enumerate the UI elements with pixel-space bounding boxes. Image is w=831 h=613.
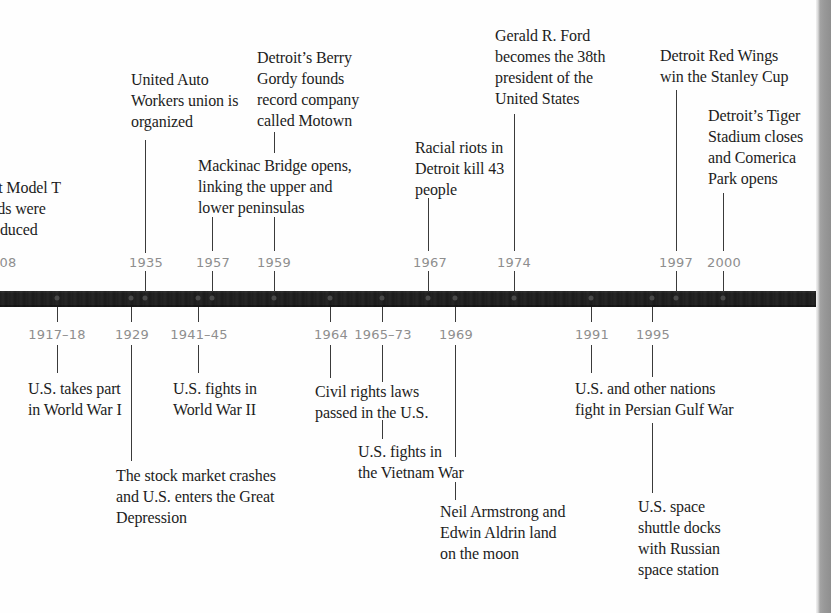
- connector-1997-lower: [676, 271, 677, 292]
- connector-1967-upper: [428, 198, 429, 251]
- year-label-1929: 1929: [115, 327, 149, 342]
- connector-1929-upper: [131, 307, 132, 322]
- timeline-marker-1969: [453, 296, 458, 301]
- timeline-marker-1967: [426, 296, 431, 301]
- connector-1935-upper: [145, 140, 146, 253]
- connector-1964-upper: [330, 307, 331, 322]
- event-text-1969: Neil Armstrong and Edwin Aldrin land on …: [440, 501, 565, 564]
- timeline-marker-1929: [129, 296, 134, 301]
- timeline-marker-1935: [143, 296, 148, 301]
- timeline-marker-1974: [512, 296, 517, 301]
- year-label-1995: 1995: [636, 327, 670, 342]
- year-label-1974: 1974: [497, 255, 531, 270]
- event-text-1917-18: U.S. takes part in World War I: [28, 378, 122, 420]
- connector-1941-lower: [198, 345, 199, 373]
- connector-1941-upper: [198, 307, 199, 322]
- year-label-1957: 1957: [196, 255, 230, 270]
- year-label-1969: 1969: [439, 327, 473, 342]
- timeline-page: st Model T rds were oduced 08 United Aut…: [0, 0, 831, 613]
- event-text-1965-73: U.S. fights in the Vietnam War: [358, 441, 464, 483]
- event-text-1935: United Auto Workers union is organized: [131, 69, 238, 132]
- timeline-marker-1991: [589, 296, 594, 301]
- connector-1965-bottom: [382, 420, 383, 439]
- connector-1995-bottom: [652, 423, 653, 493]
- year-label-1964: 1964: [314, 327, 348, 342]
- connector-1959-top: [274, 132, 275, 153]
- timeline-marker-1995: [650, 296, 655, 301]
- event-text-1959: Detroit’s Berry Gordy founds record comp…: [257, 47, 359, 131]
- year-label-1967: 1967: [413, 255, 447, 270]
- connector-1917-upper: [57, 307, 58, 322]
- connector-1967-lower: [428, 271, 429, 292]
- connector-1991-upper: [591, 307, 592, 322]
- year-label-1997: 1997: [659, 255, 693, 270]
- connector-1969-lower: [455, 345, 456, 457]
- connector-1957-lower: [212, 271, 213, 292]
- year-label-1917-18: 1917–18: [28, 327, 86, 342]
- event-text-1941-45: U.S. fights in World War II: [173, 378, 257, 420]
- connector-1965-upper: [382, 307, 383, 322]
- event-text-1908: st Model T rds were oduced: [0, 177, 61, 240]
- timeline-marker-2000: [721, 296, 726, 301]
- connector-1974-upper: [514, 114, 515, 251]
- event-text-1991: U.S. and other nations fight in Persian …: [575, 378, 734, 420]
- event-text-1974: Gerald R. Ford becomes the 38th presiden…: [495, 25, 605, 109]
- connector-1929-lower: [131, 345, 132, 461]
- connector-1997-upper: [676, 90, 677, 251]
- timeline-marker-1997: [674, 296, 679, 301]
- timeline-marker-1917: [55, 296, 60, 301]
- connector-1995-upper: [652, 307, 653, 322]
- timeline-marker-1941: [196, 296, 201, 301]
- year-label-1941-45: 1941–45: [170, 327, 228, 342]
- event-text-1967: Racial riots in Detroit kill 43 people: [415, 137, 504, 200]
- timeline-marker-1964: [328, 296, 333, 301]
- event-text-1997: Detroit Red Wings win the Stanley Cup: [660, 45, 788, 87]
- timeline-bar: [0, 291, 816, 307]
- connector-2000-upper: [723, 193, 724, 251]
- connector-1959-upper: [274, 217, 275, 251]
- timeline-marker-1957: [210, 296, 215, 301]
- event-text-1964: Civil rights laws passed in the U.S.: [315, 381, 428, 423]
- connector-1991-lower: [591, 345, 592, 373]
- connector-2000-lower: [723, 271, 724, 292]
- event-text-1957: Mackinac Bridge opens, linking the upper…: [198, 155, 352, 218]
- connector-1969-bottom: [455, 482, 456, 500]
- connector-1935-lower: [145, 271, 146, 292]
- event-text-1929: The stock market crashes and U.S. enters…: [116, 465, 276, 528]
- year-label-1935: 1935: [129, 255, 163, 270]
- year-label-1965-73: 1965–73: [354, 327, 412, 342]
- connector-1959-lower: [274, 271, 275, 292]
- year-label-1908: 08: [0, 255, 16, 270]
- connector-1957-upper: [212, 217, 213, 251]
- page-edge-strip: [816, 0, 831, 613]
- event-text-1995: U.S. space shuttle docks with Russian sp…: [638, 496, 721, 580]
- year-label-1959: 1959: [257, 255, 291, 270]
- connector-1964-lower: [330, 345, 331, 378]
- timeline-marker-1965: [380, 296, 385, 301]
- timeline-marker-1959: [272, 296, 277, 301]
- connector-1969-upper: [455, 307, 456, 322]
- event-text-2000: Detroit’s Tiger Stadium closes and Comer…: [708, 105, 803, 189]
- connector-1995-lower: [652, 345, 653, 377]
- year-label-2000: 2000: [707, 255, 741, 270]
- connector-1974-lower: [514, 271, 515, 292]
- connector-1917-lower: [57, 345, 58, 373]
- year-label-1991: 1991: [575, 327, 609, 342]
- connector-1965-lower: [382, 345, 383, 382]
